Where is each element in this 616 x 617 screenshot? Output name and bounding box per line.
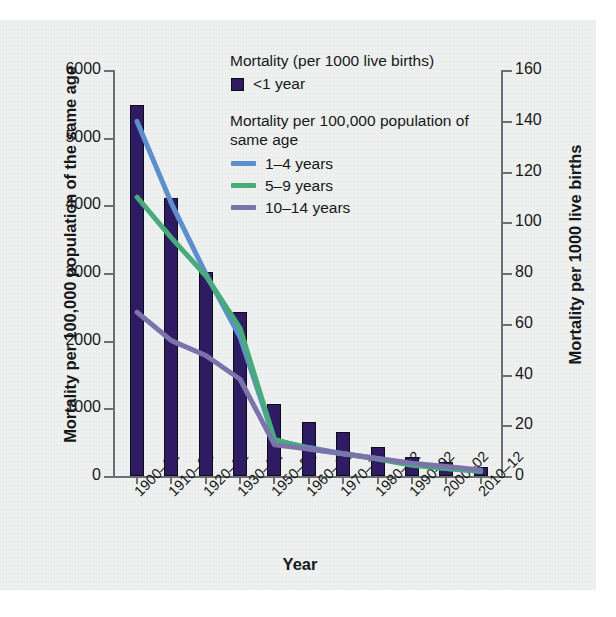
chart-figure: Mortality per 100,000 population of the …	[0, 0, 616, 617]
y-tick-right	[503, 273, 512, 275]
legend-item-10-14-years: 10–14 years	[230, 197, 490, 219]
y-tick-right	[503, 425, 512, 427]
y-tick-right	[503, 324, 512, 326]
legend-label-10-14-years: 10–14 years	[265, 199, 350, 217]
y-tick-left	[104, 273, 113, 275]
legend-label-under-1-year: <1 year	[253, 75, 305, 93]
y-tick-left	[104, 341, 113, 343]
y-tick-label-right: 80	[515, 263, 533, 281]
y-tick-right	[503, 121, 512, 123]
legend-item-5-9-years: 5–9 years	[230, 175, 490, 197]
y-tick-right	[503, 375, 512, 377]
chart-legend: Mortality (per 1000 live births) <1 year…	[230, 52, 490, 219]
y-tick-left	[104, 408, 113, 410]
legend-swatch-line-1-4-icon	[231, 161, 256, 166]
legend-title-bars: Mortality (per 1000 live births)	[230, 52, 490, 70]
legend-label-5-9-years: 5–9 years	[265, 177, 333, 195]
y-tick-label-left: 5000	[65, 128, 101, 146]
y-tick-label-left: 4000	[65, 195, 101, 213]
x-axis-title: Year	[100, 555, 500, 574]
y-tick-label-right: 60	[515, 314, 533, 332]
y-tick-label-left: 1000	[65, 398, 101, 416]
y-axis-right-title: Mortality per 1000 live births	[566, 25, 585, 485]
legend-title-lines: Mortality per 100,000 population of same…	[230, 111, 490, 150]
y-tick-label-right: 120	[515, 162, 542, 180]
y-tick-label-left: 2000	[65, 331, 101, 349]
y-tick-left	[104, 205, 113, 207]
legend-item-1-4-years: 1–4 years	[230, 153, 490, 175]
legend-swatch-line-10-14-icon	[231, 205, 256, 210]
y-tick-left	[104, 476, 113, 478]
y-tick-label-right: 20	[515, 415, 533, 433]
y-tick-label-right: 160	[515, 60, 542, 78]
legend-swatch-line-5-9-icon	[231, 183, 256, 188]
legend-swatch-bar-icon	[231, 78, 244, 91]
legend-label-1-4-years: 1–4 years	[265, 155, 333, 173]
y-tick-right	[503, 172, 512, 174]
y-tick-label-right: 140	[515, 111, 542, 129]
y-tick-label-left: 0	[92, 466, 101, 484]
y-tick-right	[503, 222, 512, 224]
y-tick-right	[503, 70, 512, 72]
y-tick-label-right: 40	[515, 365, 533, 383]
y-tick-label-left: 6000	[65, 60, 101, 78]
y-tick-left	[104, 70, 113, 72]
legend-item-under-1-year: <1 year	[230, 73, 490, 95]
y-tick-label-right: 100	[515, 212, 542, 230]
y-tick-label-left: 3000	[65, 263, 101, 281]
y-tick-left	[104, 138, 113, 140]
